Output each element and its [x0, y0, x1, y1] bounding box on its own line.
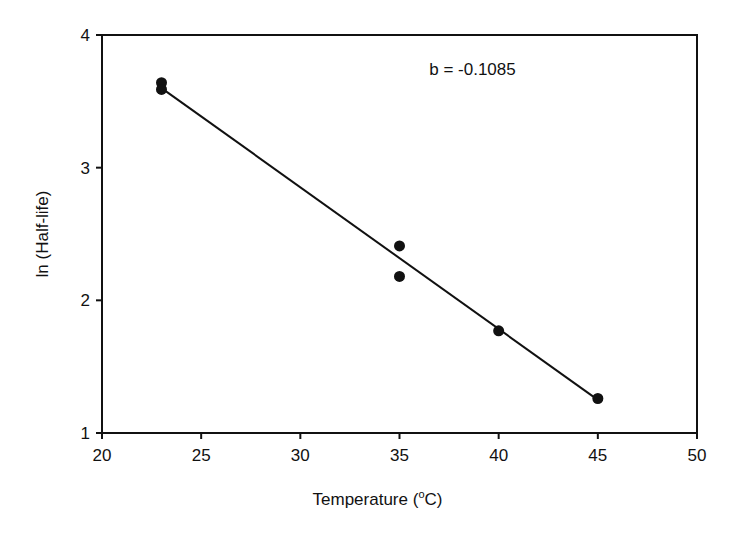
x-tick-label: 30 — [291, 446, 310, 465]
data-point — [394, 240, 405, 251]
data-point — [156, 84, 167, 95]
data-point — [394, 271, 405, 282]
x-tick-label: 50 — [688, 446, 707, 465]
x-tick-label: 45 — [588, 446, 607, 465]
y-tick-label: 1 — [81, 424, 90, 443]
y-axis-title: ln (Half-life) — [33, 191, 52, 278]
y-tick-label: 2 — [81, 291, 90, 310]
slope-annotation: b = -0.1085 — [429, 60, 516, 79]
data-point — [493, 325, 504, 336]
chart: 202530354045501234Temperature (oC)ln (Ha… — [0, 0, 741, 536]
x-tick-label: 35 — [390, 446, 409, 465]
x-tick-label: 20 — [93, 446, 112, 465]
x-tick-label: 40 — [489, 446, 508, 465]
x-tick-label: 25 — [192, 446, 211, 465]
x-axis-title: Temperature (oC) — [313, 488, 443, 509]
plot-frame — [102, 35, 697, 433]
data-point — [592, 393, 603, 404]
y-tick-label: 4 — [81, 26, 90, 45]
y-tick-label: 3 — [81, 159, 90, 178]
regression-line — [162, 88, 598, 400]
